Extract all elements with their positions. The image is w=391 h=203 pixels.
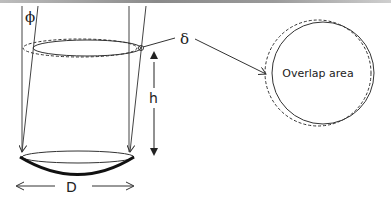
optical-overlap-diagram: δ ϕ h D Overlap area [0, 0, 391, 203]
bottom-lens-arc [20, 157, 134, 175]
overlap-area-label: Overlap area [282, 67, 353, 80]
delta-leader-line [143, 38, 175, 47]
diameter-label: D [66, 179, 77, 195]
height-arrow-up-head [150, 51, 158, 59]
phi-label: ϕ [25, 8, 35, 26]
left-beam [22, 6, 38, 152]
height-label: h [149, 90, 158, 106]
delta-to-overlap-arrow [195, 39, 266, 74]
overlap-detail: Overlap area [265, 20, 374, 126]
diameter-arrow: D [16, 179, 134, 195]
left-converging-ray [22, 6, 38, 152]
delta-label: δ [180, 30, 189, 48]
height-arrow-down-head [150, 148, 158, 156]
right-beam [129, 6, 146, 152]
bottom-lens-ellipse [22, 151, 134, 163]
right-converging-ray [130, 6, 146, 152]
height-arrow: h [149, 51, 158, 156]
